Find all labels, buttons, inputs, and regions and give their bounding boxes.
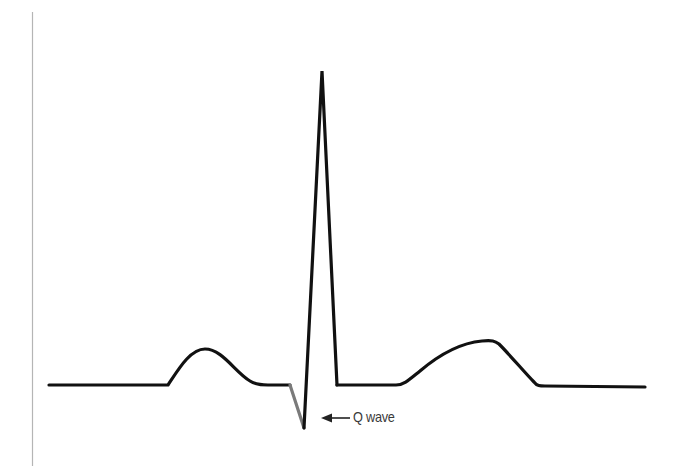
ecg-trace-p-wave	[49, 349, 290, 385]
ecg-trace-q-wave	[290, 385, 304, 428]
ecg-trace-qrs-complex	[304, 71, 337, 428]
ecg-diagram	[0, 0, 691, 466]
left-arrow-icon	[321, 414, 350, 423]
q-wave-label: Q wave	[353, 408, 395, 425]
ecg-trace-t-wave	[337, 341, 645, 387]
